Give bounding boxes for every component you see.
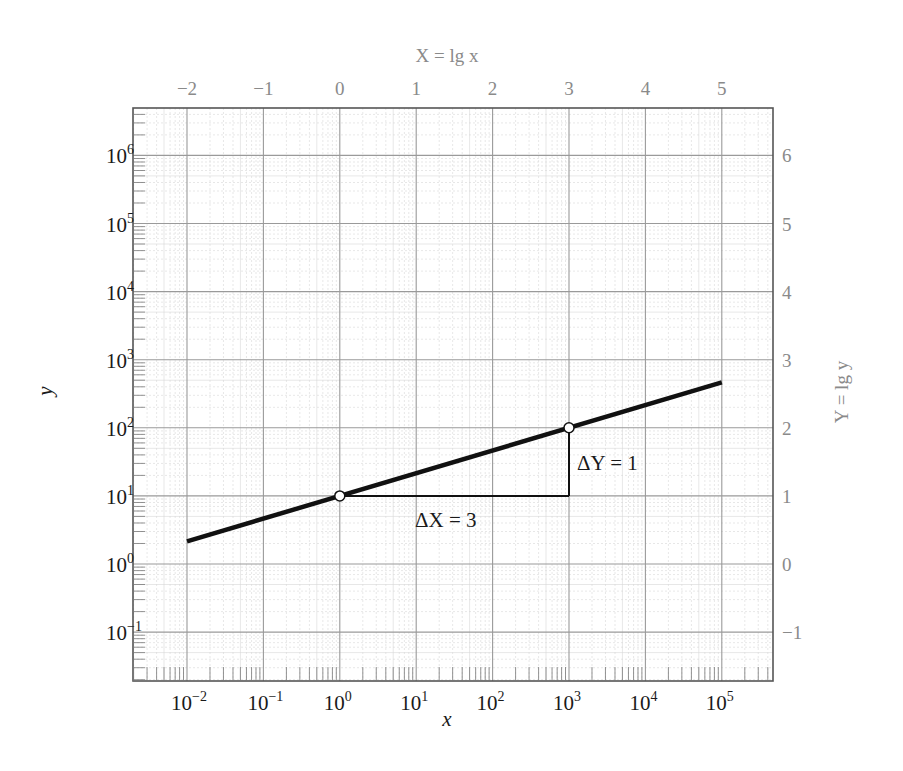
top-tick-label: 4 <box>641 78 651 99</box>
bottom-tick-label: 105 <box>706 689 734 715</box>
bottom-tick-label: 104 <box>629 689 657 715</box>
left-tick-label: 100 <box>106 551 134 577</box>
marked-point-2 <box>564 423 574 433</box>
bottom-axis-title: x <box>441 707 452 731</box>
left-axis-title: y <box>33 386 57 398</box>
delta-x-label: ΔX = 3 <box>415 508 477 532</box>
bottom-tick-label: 103 <box>553 689 581 715</box>
right-axis-tick-labels: 6543210−1 <box>782 145 802 643</box>
top-axis-tick-labels: −2−1012345 <box>177 78 727 99</box>
right-tick-label: 2 <box>782 418 792 439</box>
right-tick-label: 3 <box>782 350 792 371</box>
right-tick-label: 0 <box>782 554 792 575</box>
log-log-chart: ΔX = 3 ΔY = 1 10−210−1100101102103104105… <box>0 0 903 771</box>
top-tick-label: 1 <box>411 78 421 99</box>
top-tick-label: −1 <box>253 78 273 99</box>
right-tick-label: 6 <box>782 145 792 166</box>
top-axis-title: X = lg x <box>416 45 479 66</box>
bottom-tick-label: 100 <box>324 689 352 715</box>
top-tick-label: −2 <box>177 78 197 99</box>
bottom-tick-label: 10−1 <box>247 689 283 715</box>
left-tick-label: 102 <box>106 415 134 441</box>
left-tick-label: 101 <box>106 483 134 509</box>
delta-y-label: ΔY = 1 <box>577 451 638 475</box>
bottom-tick-label: 101 <box>400 689 428 715</box>
top-tick-label: 3 <box>564 78 574 99</box>
right-tick-label: −1 <box>782 622 802 643</box>
right-tick-label: 5 <box>782 214 792 235</box>
bottom-axis-tick-labels: 10−210−1100101102103104105 <box>171 689 734 715</box>
bottom-tick-label: 102 <box>477 689 505 715</box>
marked-point-1 <box>335 491 345 501</box>
left-tick-label: 103 <box>106 347 134 373</box>
top-tick-label: 2 <box>488 78 498 99</box>
left-tick-label: 10−1 <box>106 619 142 645</box>
left-tick-label: 105 <box>106 211 134 237</box>
right-tick-label: 1 <box>782 486 792 507</box>
left-tick-label: 104 <box>106 279 134 305</box>
top-tick-label: 5 <box>717 78 727 99</box>
right-axis-title: Y = lg y <box>831 360 852 423</box>
left-axis-tick-labels: 10610510410310210110010−1 <box>106 142 142 645</box>
bottom-tick-label: 10−2 <box>171 689 207 715</box>
left-tick-label: 106 <box>106 142 134 168</box>
top-tick-label: 0 <box>335 78 345 99</box>
right-tick-label: 4 <box>782 282 792 303</box>
